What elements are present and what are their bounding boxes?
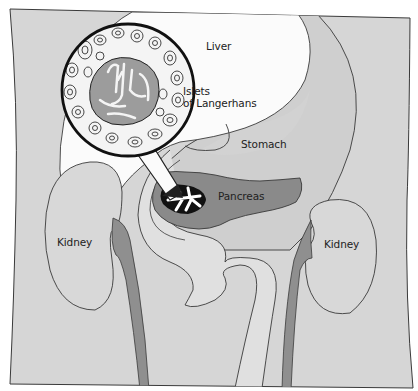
label-stomach: Stomach xyxy=(241,138,287,150)
label-kidney-left: Kidney xyxy=(57,236,92,248)
label-kidney-right: Kidney xyxy=(324,238,359,250)
magnifier-lens xyxy=(62,24,194,156)
label-pancreas: Pancreas xyxy=(218,190,264,202)
label-islets-line2: of Langerhans xyxy=(183,97,273,109)
islet-cluster xyxy=(90,58,159,125)
label-liver: Liver xyxy=(206,40,231,52)
label-islets-of-langerhans: Islets of Langerhans xyxy=(183,85,273,109)
anatomy-diagram xyxy=(0,0,418,391)
label-islets-line1: Islets xyxy=(183,85,273,97)
